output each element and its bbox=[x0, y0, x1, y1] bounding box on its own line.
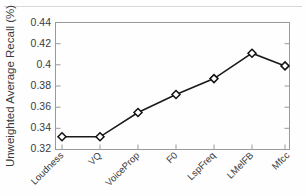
y-tick-label-0.34: 0.34 bbox=[31, 121, 52, 133]
data-point-mfcc bbox=[281, 62, 289, 70]
y-tick-label-0.42: 0.42 bbox=[31, 37, 52, 49]
data-point-f0 bbox=[172, 91, 180, 99]
x-tick-marks bbox=[62, 145, 285, 150]
series-markers bbox=[58, 49, 289, 141]
x-tick-label-voiceprop: VoiceProp bbox=[103, 150, 141, 188]
y-tick-label-0.32: 0.32 bbox=[31, 142, 52, 154]
y-tick-label-0.44: 0.44 bbox=[31, 16, 52, 28]
data-point-loudness bbox=[58, 133, 66, 141]
x-tick-label-mfcc: Mfcc bbox=[269, 149, 291, 171]
x-tick-label-f0: F0 bbox=[164, 150, 180, 166]
line-chart: Unweighted Average Recall (%) 0.44 0.42 … bbox=[0, 0, 306, 196]
y-axis-title: Unweighted Average Recall (%) bbox=[4, 5, 16, 167]
data-point-vq bbox=[96, 133, 104, 141]
x-tick-label-lmelfb: LMelFB bbox=[224, 150, 255, 181]
y-tick-label-0.36: 0.36 bbox=[31, 100, 52, 112]
data-point-voiceprop bbox=[134, 109, 142, 117]
x-tick-label-loudness: Loudness bbox=[29, 149, 66, 186]
y-tick-label-0.4: 0.4 bbox=[36, 58, 51, 70]
plot-frame bbox=[56, 23, 290, 150]
figure-canvas: Unweighted Average Recall (%) 0.44 0.42 … bbox=[0, 0, 306, 196]
y-tick-marks bbox=[56, 23, 290, 150]
x-tick-label-vq: VQ bbox=[86, 150, 103, 167]
y-tick-label-0.38: 0.38 bbox=[31, 79, 52, 91]
x-tick-label-lspfreq: LspFreq bbox=[185, 150, 217, 182]
